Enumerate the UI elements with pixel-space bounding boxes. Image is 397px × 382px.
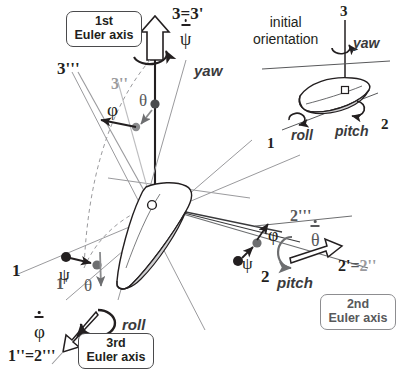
third-euler-axis-box: 3rd Euler axis bbox=[78, 333, 154, 369]
axis-3-triple-prime-label: 3''' bbox=[57, 60, 80, 77]
inset-axis-2-label: 2 bbox=[381, 117, 389, 132]
axis-equals-sign-1: = bbox=[350, 257, 359, 274]
theta-dot-rate-label: θ bbox=[311, 231, 320, 249]
axis-1doubleprime-equals-2tripleprime-label: 1''=2''' bbox=[8, 348, 55, 364]
first-euler-axis-box: 1st Euler axis bbox=[66, 11, 142, 47]
axis-2-prime-text: 2' bbox=[338, 257, 350, 274]
roll-label: roll bbox=[122, 317, 145, 332]
phi-dot-rate-label: φ bbox=[34, 322, 45, 341]
inset-axis-1-label: 1 bbox=[267, 136, 275, 151]
pitch-label: pitch bbox=[277, 275, 313, 290]
euler-angle-diagram: initial orientation 3 1 2 yaw roll pitch… bbox=[0, 0, 397, 382]
third-euler-axis-line1: 3rd bbox=[106, 336, 125, 350]
yaw-label: yaw bbox=[194, 63, 222, 78]
axis-1-double-prime-text: 1'' bbox=[8, 347, 25, 364]
axis-2-label: 2 bbox=[261, 268, 270, 285]
second-euler-axis-box: 2nd Euler axis bbox=[320, 294, 396, 330]
psi-angle-right-label: ψ bbox=[242, 255, 253, 272]
third-euler-axis-line2: Euler axis bbox=[86, 350, 145, 364]
body-hull bbox=[117, 183, 192, 289]
psi-dot-rate-label: ψ bbox=[180, 30, 191, 48]
first-euler-axis-line2: Euler axis bbox=[74, 28, 133, 42]
axis-2-triple-prime-label: 2''' bbox=[290, 208, 311, 224]
axis-2-triple-prime-text: 2''' bbox=[34, 347, 55, 364]
axis-1-label: 1 bbox=[12, 262, 21, 279]
inset-caption: initial orientation bbox=[253, 14, 318, 48]
inset-pitch-label: pitch bbox=[335, 124, 368, 138]
axis-3-equals-3prime-label: 3=3' bbox=[172, 5, 203, 22]
theta-angle-top-label: θ bbox=[139, 92, 147, 109]
first-euler-axis-line1: 1st bbox=[95, 14, 113, 28]
inset-axis-3-label: 3 bbox=[340, 4, 348, 19]
psi-angle-left-label: ψ bbox=[59, 266, 70, 283]
axis-equals-sign-2: = bbox=[25, 347, 34, 364]
inset-roll-label: roll bbox=[291, 128, 313, 142]
second-euler-axis-line2: Euler axis bbox=[328, 311, 387, 325]
second-euler-axis-line1: 2nd bbox=[347, 297, 369, 311]
theta-angle-left-label: θ bbox=[84, 277, 92, 294]
axis-2-double-prime-text: 2'' bbox=[360, 257, 377, 274]
axis-3-double-prime-label: 3'' bbox=[111, 76, 128, 92]
axis-2prime-equals-2doubleprime-label: 2'=2'' bbox=[338, 258, 376, 274]
inset-yaw-label: yaw bbox=[353, 36, 379, 50]
phi-angle-right-label: φ bbox=[268, 226, 278, 244]
phi-angle-top-label: φ bbox=[107, 100, 118, 119]
